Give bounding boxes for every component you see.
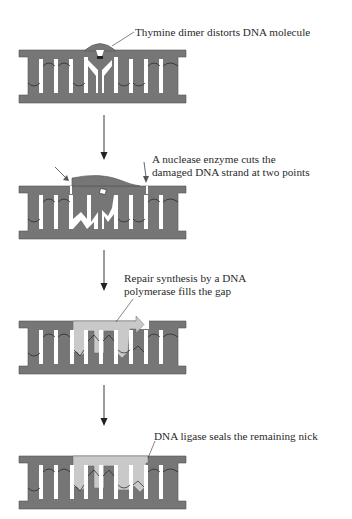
cut-arrow-right: [143, 162, 149, 183]
dna-molecule-step1: [19, 44, 186, 104]
down-arrow-3: [101, 385, 108, 426]
label-step2-line2: damaged DNA strand at two points: [152, 166, 310, 179]
cut-arrow-left: [55, 167, 69, 181]
dna-molecule-step2: [19, 175, 186, 239]
leader-line-step3: [116, 299, 133, 322]
leader-line-step1: [112, 32, 134, 46]
label-step4: DNA ligase seals the remaining nick: [154, 430, 318, 443]
label-step3: Repair synthesis by a DNA polymerase fil…: [124, 272, 246, 298]
dna-molecule-step4: [19, 456, 186, 509]
label-step3-line1: Repair synthesis by a DNA: [124, 272, 246, 285]
down-arrow-1: [101, 115, 108, 160]
down-arrow-2: [101, 250, 108, 291]
leader-line-step4: [148, 441, 155, 458]
label-step3-line2: polymerase fills the gap: [124, 285, 246, 298]
label-step1-line1: Thymine dimer distorts DNA molecule: [135, 26, 310, 39]
label-step2: A nuclease enzyme cuts the damaged DNA s…: [152, 153, 310, 179]
label-step4-line1: DNA ligase seals the remaining nick: [154, 430, 318, 443]
label-step1: Thymine dimer distorts DNA molecule: [135, 26, 310, 39]
label-step2-line1: A nuclease enzyme cuts the: [152, 153, 310, 166]
dna-molecule-step3: [19, 316, 186, 374]
